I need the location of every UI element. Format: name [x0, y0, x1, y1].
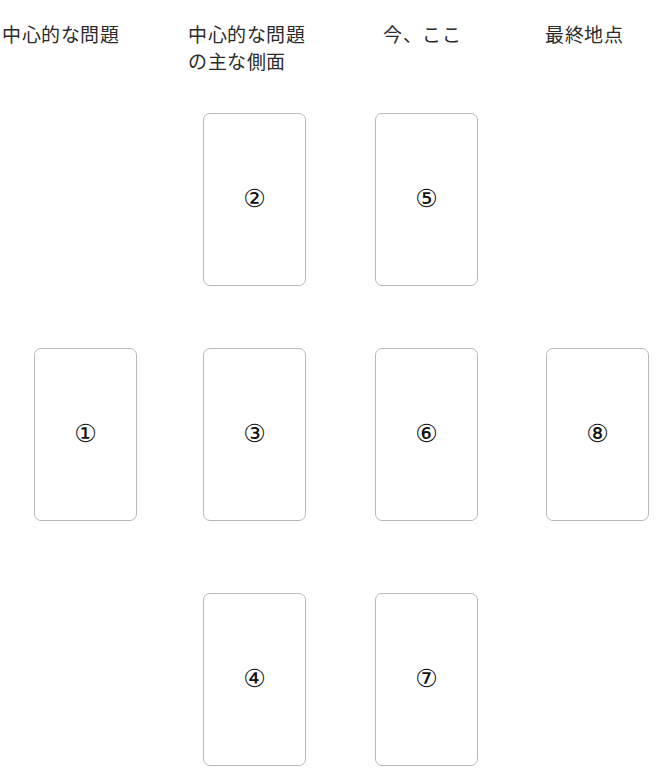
card-number-7: ⑦: [415, 666, 437, 691]
column-header-central-issue: 中心的な問題: [2, 22, 182, 49]
tarot-card-7[interactable]: ⑦: [375, 593, 478, 766]
tarot-card-8[interactable]: ⑧: [546, 348, 649, 521]
tarot-card-4[interactable]: ④: [203, 593, 306, 766]
tarot-card-6[interactable]: ⑥: [375, 348, 478, 521]
tarot-card-5[interactable]: ⑤: [375, 113, 478, 286]
card-number-3: ③: [243, 421, 265, 446]
column-header-here-and-now: 今、ここ: [383, 22, 533, 49]
card-number-5: ⑤: [415, 186, 437, 211]
tarot-spread-diagram: 中心的な問題 中心的な問題 の主な側面 今、ここ 最終地点 ② ⑤ ① ③ ⑥ …: [0, 0, 667, 784]
tarot-card-2[interactable]: ②: [203, 113, 306, 286]
card-number-6: ⑥: [415, 421, 437, 446]
card-number-8: ⑧: [586, 421, 608, 446]
tarot-card-3[interactable]: ③: [203, 348, 306, 521]
tarot-card-1[interactable]: ①: [34, 348, 137, 521]
card-number-2: ②: [243, 186, 265, 211]
column-header-final-destination: 最終地点: [545, 22, 667, 49]
card-number-4: ④: [243, 666, 265, 691]
column-header-main-aspects: 中心的な問題 の主な側面: [188, 22, 358, 76]
card-number-1: ①: [74, 421, 96, 446]
